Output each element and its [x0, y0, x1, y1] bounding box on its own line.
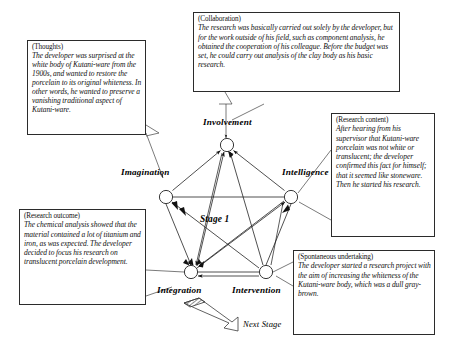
diagram-title: Stage 1: [200, 214, 229, 224]
callout-research-content-caption: (Research content): [336, 116, 431, 124]
edge-integration-intelligence: [197, 202, 285, 268]
node-label-integration: Integration: [157, 285, 202, 295]
callout-research-outcome-text: The chemical analysis showed that the ma…: [24, 220, 142, 266]
edge-intelligence-involvement: [234, 151, 285, 191]
callout-research-content: (Research content) After hearing from hi…: [331, 113, 435, 237]
node-involvement: [220, 138, 233, 151]
callout-thoughts-caption: (Thoughts): [32, 43, 142, 51]
callout-collaboration-caption: (Collaboration): [198, 15, 396, 23]
callout-spontaneous-undertaking-caption: (Spontaneous undertaking): [298, 253, 431, 261]
next-stage-label: Next Stage: [243, 319, 282, 329]
edge-imagination-involvement: [173, 151, 221, 191]
node-label-involvement: Involvement: [203, 117, 252, 127]
callout-thoughts: (Thoughts) The developer was surprised a…: [27, 40, 146, 135]
leader-collab-elbow: [219, 92, 232, 104]
edge-integration-involvement: [197, 152, 224, 266]
involvement-incoming-arrowheads: [228, 151, 234, 158]
next-stage-arrow: [184, 298, 238, 331]
intelligence-incoming-arrowheads: [282, 205, 290, 214]
leader-thoughts-elbow: [146, 125, 159, 136]
node-intelligence: [284, 190, 297, 203]
node-imagination: [159, 190, 172, 203]
callout-spontaneous-undertaking: (Spontaneous undertaking) The developer …: [293, 250, 435, 335]
edge-intelligence-integration: [199, 201, 284, 266]
callout-collaboration: (Collaboration) The research was basical…: [193, 12, 400, 92]
node-integration: [184, 265, 197, 278]
leader-spont: [273, 262, 293, 272]
callout-research-content-text: After hearing from his supervisor that K…: [336, 124, 431, 189]
leader-content-b: [299, 202, 331, 220]
callout-spontaneous-undertaking-text: The developer started a research project…: [298, 261, 431, 298]
diagram-canvas: (Thoughts) The developer was surprised a…: [0, 0, 461, 345]
callout-research-outcome-caption: (Research outcome): [24, 212, 142, 220]
callout-thoughts-text: The developer was surprised at the white…: [32, 51, 142, 114]
node-label-imagination: Imagination: [121, 167, 170, 177]
node-label-intelligence: Intelligence: [282, 167, 329, 177]
node-intervention: [259, 265, 272, 278]
callout-collaboration-text: The research was basically carried out s…: [198, 23, 396, 69]
node-label-intervention: Intervention: [232, 285, 281, 295]
edge-involvement-integration-b: [196, 153, 222, 265]
leader-outcome: [146, 270, 184, 272]
callout-research-outcome: (Research outcome) The chemical analysis…: [19, 209, 146, 305]
imagination-incoming-arrowheads: [172, 201, 187, 216]
edge-intelligence-intervention-b: [271, 203, 283, 265]
edge-intervention-involvement: [230, 152, 263, 265]
